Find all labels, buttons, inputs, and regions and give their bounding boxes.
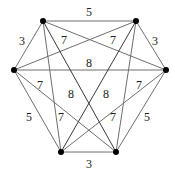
edge-top-right-left: [14, 21, 136, 70]
edge-weight-label: 3: [19, 34, 25, 48]
edge-weight-label: 5: [26, 110, 32, 124]
edge-labels: 533778778855773: [19, 5, 158, 171]
edge-weight-label: 7: [136, 78, 142, 92]
vertex-top-right: [133, 18, 139, 24]
vertex-bottom-right: [113, 149, 119, 155]
edge-weight-label: 5: [86, 5, 92, 19]
edge-weight-label: 8: [68, 87, 74, 101]
edge-weight-label: 8: [86, 56, 92, 70]
edge-weight-label: 7: [37, 78, 43, 92]
edge-weight-label: 7: [110, 33, 116, 47]
edge-weight-label: 8: [103, 87, 109, 101]
weighted-graph-diagram: 533778778855773: [0, 0, 175, 173]
vertex-bottom-left: [58, 149, 64, 155]
edge-top-left-bottom-left: [43, 21, 61, 152]
edge-top-right-bottom-right: [116, 21, 136, 152]
edge-weight-label: 7: [58, 110, 64, 124]
vertex-right: [163, 67, 169, 73]
edge-weight-label: 7: [61, 33, 67, 47]
edge-weight-label: 7: [110, 110, 116, 124]
edge-weight-label: 3: [86, 157, 92, 171]
vertex-top-left: [40, 18, 46, 24]
edge-top-right-right: [136, 21, 166, 70]
edge-weight-label: 5: [144, 110, 150, 124]
edge-weight-label: 3: [152, 34, 158, 48]
vertex-left: [11, 67, 17, 73]
